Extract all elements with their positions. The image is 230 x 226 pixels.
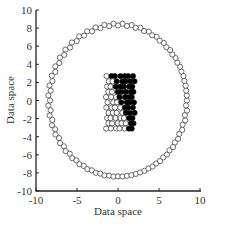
x-tick-label: -10	[29, 194, 44, 206]
open-marker	[47, 98, 52, 103]
open-marker	[47, 83, 52, 88]
x-tick-label: 10	[195, 194, 207, 206]
y-tick-label: -4	[23, 131, 33, 143]
open-marker	[123, 121, 128, 126]
open-marker	[184, 98, 189, 103]
filled-marker	[121, 84, 126, 89]
open-marker	[98, 25, 103, 30]
open-marker	[108, 94, 113, 99]
filled-marker	[132, 110, 137, 115]
open-marker	[184, 93, 189, 98]
open-marker	[109, 121, 114, 126]
filled-marker	[130, 73, 135, 78]
open-marker	[104, 73, 109, 78]
filled-marker	[130, 84, 135, 89]
open-marker	[63, 47, 68, 52]
open-marker	[117, 126, 122, 131]
open-marker	[129, 22, 134, 27]
filled-marker	[131, 121, 136, 126]
open-marker	[184, 108, 189, 113]
open-marker	[53, 127, 58, 132]
open-marker	[69, 40, 74, 45]
filled-marker	[131, 100, 136, 105]
open-marker	[105, 100, 110, 105]
y-tick-label: -8	[23, 167, 33, 179]
filled-marker	[130, 105, 135, 110]
open-marker	[49, 73, 54, 78]
open-marker	[183, 103, 188, 108]
y-axis-label: Data space	[4, 76, 16, 124]
open-marker	[103, 94, 108, 99]
axes: -10-8-6-4-20246810 -10-50510 Data space …	[4, 4, 206, 217]
open-marker	[110, 89, 115, 94]
open-marker	[89, 29, 94, 34]
open-marker	[121, 115, 126, 120]
y-tick-label: 2	[27, 76, 33, 88]
scatter-chart: -10-8-6-4-20246810 -10-50510 Data space …	[0, 0, 230, 226]
filled-marker	[125, 105, 130, 110]
y-tick-label: 0	[27, 95, 33, 107]
open-marker	[113, 115, 118, 120]
filled-marker	[129, 126, 134, 131]
x-tick-label: 5	[156, 194, 162, 206]
open-marker	[108, 84, 113, 89]
open-marker	[48, 108, 53, 113]
y-tick-label: 6	[27, 40, 33, 52]
open-marker	[108, 126, 113, 131]
open-marker	[180, 127, 185, 132]
open-marker	[108, 115, 113, 120]
x-tick-label: -5	[72, 194, 82, 206]
open-marker	[50, 117, 55, 122]
filled-marker	[112, 73, 117, 78]
open-marker	[184, 88, 189, 93]
filled-marker	[123, 89, 128, 94]
caption-fragment	[0, 217, 230, 226]
open-marker	[57, 55, 62, 60]
filled-marker	[117, 94, 122, 99]
filled-marker	[130, 115, 135, 120]
open-marker	[56, 135, 61, 140]
x-axis-label: Data space	[94, 205, 142, 217]
filled-marker	[125, 73, 130, 78]
filled-marker	[129, 94, 134, 99]
plot-points	[46, 21, 190, 179]
filled-marker	[119, 100, 124, 105]
open-marker	[53, 64, 58, 69]
filled-marker	[131, 89, 136, 94]
y-tick-label: 10	[21, 4, 33, 16]
open-marker	[46, 93, 51, 98]
filled-marker	[132, 79, 137, 84]
open-marker	[175, 136, 180, 141]
y-tick-label: 4	[27, 58, 33, 70]
y-tick-label: 8	[27, 22, 33, 34]
y-tick-label: -6	[23, 149, 33, 161]
y-tick-label: -2	[23, 113, 32, 125]
open-marker	[104, 105, 109, 110]
open-marker	[81, 33, 86, 38]
open-marker	[182, 78, 187, 83]
open-marker	[183, 118, 188, 123]
open-marker	[112, 105, 117, 110]
open-marker	[114, 110, 119, 115]
filled-marker	[114, 79, 119, 84]
